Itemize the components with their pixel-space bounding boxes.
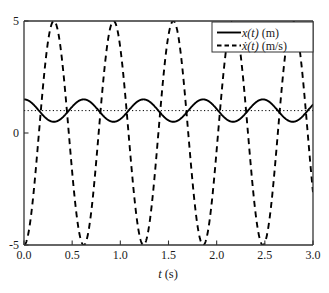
x-tick-label: 2.0 <box>209 248 224 262</box>
plot-canvas: 0.00.51.01.52.02.53.0 50-5 t(s) x(t)(m) … <box>0 0 329 293</box>
x-tick-label: 1.5 <box>161 248 176 262</box>
legend-label-velocity: ẋ(t)(m/s) <box>241 39 287 53</box>
x-tick-label: 0.5 <box>65 248 80 262</box>
chart-figure: 0.00.51.01.52.02.53.0 50-5 t(s) x(t)(m) … <box>0 0 329 293</box>
x-tick-label: 1.0 <box>113 248 128 262</box>
x-axis-tick-labels: 0.00.51.01.52.02.53.0 <box>17 248 321 262</box>
x-axis-title-unit: (s) <box>165 267 178 281</box>
plot-background <box>24 21 313 245</box>
legend[interactable]: x(t)(m) ẋ(t)(m/s) <box>212 22 313 53</box>
x-axis-title: t(s) <box>158 267 178 281</box>
y-axis-tick-labels: 50-5 <box>9 14 19 252</box>
legend-label-position-unit: (m) <box>262 26 279 40</box>
y-tick-label: 5 <box>13 14 19 28</box>
legend-label-velocity-unit: (m/s) <box>262 39 287 53</box>
x-axis-title-variable: t <box>158 267 162 281</box>
legend-label-position-arg: (t) <box>247 26 258 40</box>
legend-label-velocity-arg: (t) <box>247 39 258 53</box>
x-tick-label: 3.0 <box>306 248 321 262</box>
y-tick-label: -5 <box>9 238 19 252</box>
y-tick-label: 0 <box>13 126 19 140</box>
x-tick-label: 2.5 <box>257 248 272 262</box>
